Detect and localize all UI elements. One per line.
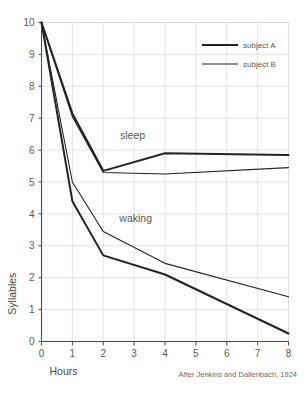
x-tick-label: 8	[286, 348, 292, 359]
x-tick-label: 3	[131, 348, 137, 359]
x-tick-label: 7	[255, 348, 261, 359]
x-tick-label: 5	[193, 348, 199, 359]
line-chart-canvas: 012345678012345678910HoursSyllablessleep…	[0, 0, 307, 395]
y-tick-label: 5	[29, 177, 35, 188]
chart-caption: After Jenkins and Dallenbach, 1924	[179, 370, 297, 379]
y-tick-label: 7	[29, 113, 35, 124]
y-tick-label: 3	[29, 240, 35, 251]
annotation-waking: waking	[118, 212, 152, 224]
y-tick-label: 1	[29, 304, 35, 315]
legend-label-1: subject A	[243, 41, 276, 50]
x-tick-label: 1	[70, 348, 76, 359]
y-tick-label: 4	[29, 209, 35, 220]
legend-label-2: subject B	[243, 60, 276, 69]
x-axis-title: Hours	[50, 365, 78, 377]
chart-figure: 012345678012345678910HoursSyllablessleep…	[0, 0, 307, 395]
x-tick-label: 2	[100, 348, 106, 359]
x-tick-label: 0	[39, 348, 45, 359]
y-axis-title: Syllables	[6, 273, 18, 315]
y-tick-label: 10	[23, 17, 35, 28]
y-tick-label: 9	[29, 49, 35, 60]
y-tick-label: 6	[29, 145, 35, 156]
y-tick-label: 2	[29, 272, 35, 283]
x-tick-label: 4	[162, 348, 168, 359]
annotation-sleep: sleep	[120, 129, 145, 141]
y-tick-label: 8	[29, 81, 35, 92]
y-tick-label: 0	[29, 336, 35, 347]
x-tick-label: 6	[224, 348, 230, 359]
